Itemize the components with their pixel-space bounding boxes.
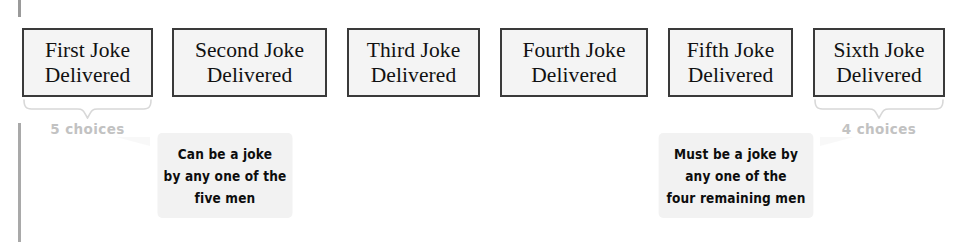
joke-box-fifth-joke: Fifth JokeDelivered: [668, 28, 793, 97]
joke-box-sixth-joke: Sixth JokeDelivered: [813, 28, 945, 97]
joke-box-line1: First Joke: [45, 38, 130, 62]
joke-box-fourth-joke: Fourth JokeDelivered: [500, 28, 648, 97]
joke-box-line1: Sixth Joke: [833, 38, 924, 62]
brace-first-icon: [22, 99, 153, 119]
callout-sixth-joke: Must be a joke byany one of thefour rema…: [659, 133, 814, 218]
callout-line: five men: [195, 187, 256, 209]
margin-rule-top: [18, 0, 21, 17]
joke-box-line1: Fourth Joke: [522, 38, 625, 62]
callout-line: by any one of the: [164, 165, 287, 187]
callout-line: Must be a joke by: [674, 143, 798, 165]
callout-first-joke-tail-icon: [116, 137, 150, 146]
callout-line: four remaining men: [667, 187, 806, 209]
diagram-canvas: First JokeDeliveredSecond JokeDeliveredT…: [0, 0, 956, 242]
joke-box-first-joke: First JokeDelivered: [22, 28, 153, 97]
joke-box-line1: Third Joke: [367, 38, 461, 62]
callout-sixth-joke-tail-icon: [820, 137, 854, 146]
joke-box-line2: Delivered: [531, 63, 617, 87]
margin-rule-bottom: [18, 123, 21, 242]
joke-box-line1: Fifth Joke: [687, 38, 775, 62]
callout-first-joke: Can be a jokeby any one of thefive men: [158, 133, 293, 218]
callout-line: any one of the: [685, 165, 787, 187]
joke-box-second-joke: Second JokeDelivered: [172, 28, 327, 97]
joke-box-line2: Delivered: [688, 63, 774, 87]
joke-box-line2: Delivered: [207, 63, 293, 87]
joke-box-line2: Delivered: [836, 63, 922, 87]
brace-sixth-count-label: 4 choices: [813, 121, 945, 137]
brace-first-count-label: 5 choices: [22, 121, 153, 137]
joke-box-third-joke: Third JokeDelivered: [347, 28, 480, 97]
callout-line: Can be a joke: [178, 143, 272, 165]
brace-sixth-icon: [813, 99, 945, 119]
joke-box-line1: Second Joke: [195, 38, 304, 62]
joke-box-line2: Delivered: [45, 63, 131, 87]
joke-box-line2: Delivered: [371, 63, 457, 87]
